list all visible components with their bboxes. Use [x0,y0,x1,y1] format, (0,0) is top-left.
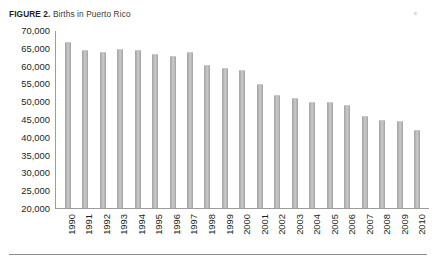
bar-slot [373,31,390,208]
bar-slot [269,31,286,208]
y-axis-tick-label: 35,000 [21,151,50,160]
x-axis-tick-label: 2010 [417,213,426,234]
y-axis-tick-label: 55,000 [21,80,50,89]
bar[interactable] [187,52,193,208]
bar[interactable] [135,50,141,208]
bar-slot [321,31,338,208]
x-slot: 2004 [303,210,321,256]
x-slot: 1993 [111,210,129,256]
bar-slot [408,31,425,208]
x-slot: 1991 [76,210,94,256]
bar-slot [181,31,198,208]
bar-slot [146,31,163,208]
x-slot: 2000 [233,210,251,256]
bar-slot [356,31,373,208]
scan-artifact-speck [413,11,418,16]
bar[interactable] [100,52,106,208]
bar[interactable] [414,130,420,208]
bar[interactable] [309,102,315,208]
bar-slot [59,31,76,208]
figure-title: Births in Puerto Rico [53,9,131,19]
bar-slot [76,31,93,208]
x-slot: 2006 [339,210,357,256]
bar[interactable] [152,54,158,208]
x-slot: 2009 [391,210,409,256]
y-axis-tick-label: 60,000 [21,62,50,71]
bar[interactable] [257,84,263,208]
bar[interactable] [204,65,210,208]
y-axis-tick-label: 65,000 [21,44,50,53]
bar-slot [304,31,321,208]
figure-caption: FIGURE 2. Births in Puerto Rico [9,9,131,20]
bar[interactable] [222,68,228,208]
x-slot: 1998 [198,210,216,256]
x-slot: 2005 [321,210,339,256]
x-axis: 1990199119921993199419951996199719981999… [55,210,429,256]
x-slot: 2007 [356,210,374,256]
bar[interactable] [344,105,350,208]
bar[interactable] [274,95,280,208]
bar-chart: 70,00065,00060,00055,00050,00045,00040,0… [0,26,436,248]
x-slot: 1994 [128,210,146,256]
bar[interactable] [327,102,333,208]
bar[interactable] [292,98,298,208]
bar-slot [286,31,303,208]
y-axis-tick-label: 70,000 [21,26,50,35]
bar-slot [251,31,268,208]
y-axis-tick-label: 30,000 [21,169,50,178]
bar[interactable] [239,70,245,208]
y-axis-tick-label: 50,000 [21,97,50,106]
bar[interactable] [82,50,88,208]
bar[interactable] [362,116,368,208]
bar-slot [339,31,356,208]
bar-slot [94,31,111,208]
x-slot: 2008 [374,210,392,256]
x-slot: 1997 [181,210,199,256]
x-slot: 2003 [286,210,304,256]
bar[interactable] [65,42,71,208]
plot-area [55,31,429,209]
bar-slot [129,31,146,208]
bar-slot [391,31,408,208]
bar-slot [234,31,251,208]
bar[interactable] [117,49,123,208]
x-slot: 1990 [58,210,76,256]
y-axis-tick-label: 25,000 [21,186,50,195]
bar[interactable] [379,120,385,209]
bar[interactable] [397,121,403,208]
bar-slot [164,31,181,208]
y-axis-tick-label: 40,000 [21,133,50,142]
bar[interactable] [170,56,176,208]
x-slot: 1992 [93,210,111,256]
x-slot: 1996 [163,210,181,256]
x-slot: 1999 [216,210,234,256]
y-axis-tick-label: 45,000 [21,115,50,124]
x-slot: 2002 [268,210,286,256]
x-slot: 2001 [251,210,269,256]
bar-slot [199,31,216,208]
footer-divider [9,254,427,255]
x-slot: 1995 [146,210,164,256]
bar-slot [216,31,233,208]
y-axis: 70,00065,00060,00055,00050,00045,00040,0… [0,26,53,216]
y-axis-tick-label: 20,000 [21,204,50,213]
x-slot: 2010 [409,210,427,256]
figure-label: FIGURE 2. [9,9,50,19]
bar-series [56,31,429,208]
bar-slot [111,31,128,208]
